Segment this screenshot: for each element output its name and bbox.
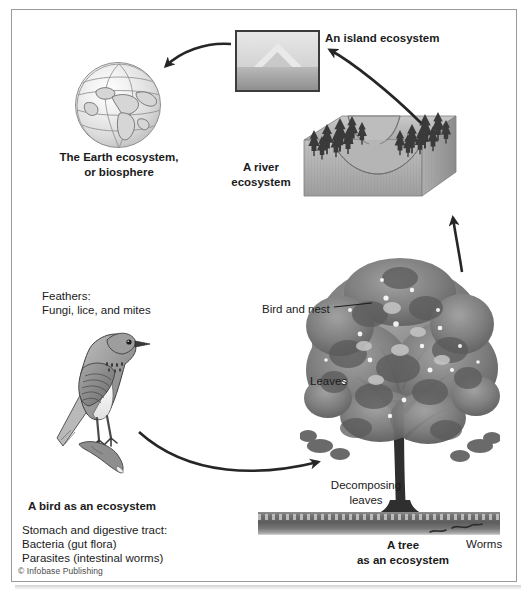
bird-illustration [55, 320, 155, 475]
earth-ecosystem-label: The Earth ecosystem, or biosphere [34, 150, 204, 179]
soil-layer-illustration [258, 512, 500, 535]
decomposing-leaves-label: Decomposing leaves [320, 478, 412, 507]
figure-shadow [15, 585, 521, 590]
worms-label: Worms [466, 537, 502, 552]
bird-detail-line-1: Stomach and digestive tract: [22, 523, 167, 538]
island-ecosystem-label: An island ecosystem [325, 31, 439, 46]
bird-and-nest-label: Bird and nest [262, 302, 330, 317]
leaves-label: Leaves [310, 374, 347, 389]
tree-ecosystem-label: A tree as an ecosystem [348, 538, 458, 567]
earth-globe-illustration [75, 62, 161, 148]
river-ecosystem-label: A river ecosystem [216, 160, 306, 189]
bird-detail-line-3: Parasites (intestinal worms) [22, 551, 163, 566]
feathers-detail-label: Fungi, lice, and mites [42, 303, 151, 318]
island-photo-thumbnail [235, 30, 320, 92]
feathers-title-label: Feathers: [42, 289, 91, 304]
bird-detail-line-2: Bacteria (gut flora) [22, 537, 117, 552]
river-ecosystem-illustration [296, 100, 462, 208]
publisher-credit: © Infobase Publishing [18, 566, 103, 576]
bird-ecosystem-title-label: A bird as an ecosystem [28, 499, 156, 514]
island-sea [237, 67, 318, 90]
ecosystem-levels-figure: The Earth ecosystem, or biosphere An isl… [0, 0, 532, 598]
